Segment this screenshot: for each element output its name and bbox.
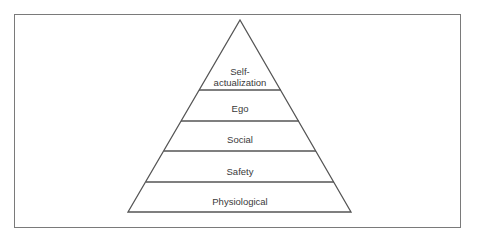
pyramid-diagram: Self- actualization Ego Social Safety Ph…	[0, 0, 479, 240]
level-label: Physiological	[212, 196, 267, 207]
pyramid-level-selfactualization: Self- actualization	[214, 66, 267, 88]
pyramid-level-safety: Safety	[227, 166, 254, 177]
level-label-line-2: actualization	[214, 77, 267, 88]
level-label: Social	[227, 134, 253, 145]
level-label-line-1: Self-	[230, 66, 250, 77]
level-label: Ego	[232, 103, 249, 114]
pyramid-level-ego: Ego	[232, 103, 249, 114]
level-label: Safety	[227, 166, 254, 177]
pyramid-level-social: Social	[227, 134, 253, 145]
pyramid-level-physiological: Physiological	[212, 196, 267, 207]
pyramid-outline	[128, 20, 351, 212]
